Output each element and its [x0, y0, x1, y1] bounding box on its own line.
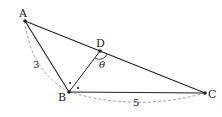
segment-bd	[69, 51, 100, 92]
label-b: B	[58, 91, 66, 104]
point-b	[67, 90, 71, 94]
label-c: C	[208, 88, 216, 101]
label-side-bc: 5	[133, 97, 139, 108]
segment-ac	[25, 21, 205, 93]
point-c	[203, 91, 207, 95]
label-d: D	[96, 37, 105, 50]
triangle-diagram: A D B C 3 5 θ	[0, 0, 222, 117]
label-a: A	[18, 7, 28, 20]
label-side-ab: 3	[33, 59, 39, 70]
segment-ab	[25, 21, 69, 92]
angle-mark-1	[69, 82, 71, 84]
geometry-figure: A D B C 3 5 θ	[0, 0, 222, 117]
segment-bc	[69, 92, 205, 93]
angle-mark-2	[77, 87, 79, 89]
label-theta: θ	[99, 59, 105, 70]
